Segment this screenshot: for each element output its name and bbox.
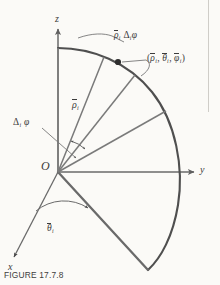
- delta-phi-phi: φ: [24, 117, 29, 127]
- page-margin-rule: [208, 0, 209, 112]
- radius-rho: ρ: [72, 100, 77, 110]
- triple-leader: [122, 60, 146, 62]
- radial-line-4: [58, 111, 166, 172]
- triple-phi: φ: [174, 54, 179, 64]
- sample-point-marker: [115, 59, 121, 65]
- triple-close: ): [182, 53, 185, 63]
- arc-length-rho-sub: i: [119, 35, 121, 41]
- triple-rho: ρ: [150, 54, 155, 64]
- arc-length-label: ρi Δiφ: [114, 31, 137, 42]
- figure-container: z y x O ρi Δiφ (ρi, θi, φi) ρi Δi φ θi F…: [0, 0, 220, 285]
- origin-label: O: [41, 160, 50, 172]
- y-axis-label: y: [200, 165, 205, 175]
- theta-arc: [36, 201, 88, 211]
- point-coordinates-label: (ρi, θi, φi): [147, 54, 185, 65]
- x-axis: [14, 172, 58, 257]
- radius-label: ρi: [72, 100, 79, 111]
- triple-comma-2: ,: [169, 53, 171, 63]
- radial-line-2: [58, 57, 104, 172]
- triple-theta: θ: [162, 54, 167, 64]
- sphere-wedge-outline: [58, 48, 180, 270]
- triple-comma-1: ,: [157, 53, 159, 63]
- theta-sub: i: [52, 228, 54, 234]
- radius-sub: i: [77, 104, 79, 111]
- z-axis-label: z: [55, 14, 59, 24]
- arc-length-phi: φ: [132, 30, 137, 40]
- theta-symbol: θ: [47, 224, 52, 234]
- arc-length-delta: Δ: [123, 30, 129, 40]
- arc-length-rho: ρ: [114, 31, 119, 41]
- figure-drawing: [0, 0, 220, 285]
- deltaphi-leader: [42, 128, 76, 158]
- radial-line-3: [58, 75, 135, 172]
- figure-caption: FIGURE 17.7.8: [4, 270, 64, 280]
- wedge-lower-edge: [58, 172, 148, 270]
- delta-phi-label: Δi φ: [13, 118, 29, 129]
- theta-angle-label: θi: [47, 224, 54, 235]
- delta-phi-sub: i: [19, 122, 21, 128]
